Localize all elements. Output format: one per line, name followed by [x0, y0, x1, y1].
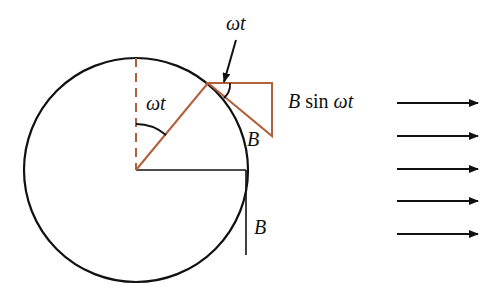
- omega-t-pointer: [224, 40, 236, 82]
- b-sin-omega-t-label: B sin ωt: [288, 90, 354, 112]
- omega-t-center-label: ωt: [146, 92, 166, 114]
- magnetic-field-arrows: [397, 103, 478, 234]
- omega-t-top-label: ωt: [226, 12, 246, 34]
- b-hypotenuse-label: B: [247, 128, 259, 150]
- center-angle-arc: [136, 124, 166, 135]
- diagram-canvas: ωt ωt B B B sin ωt: [0, 0, 503, 292]
- b-bottom-label: B: [254, 216, 266, 238]
